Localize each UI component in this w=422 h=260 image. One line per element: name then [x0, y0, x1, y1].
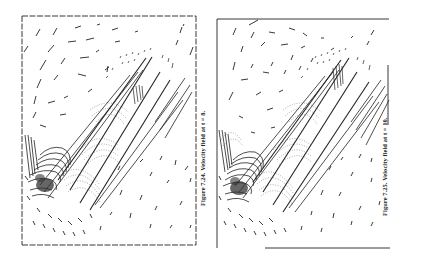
figure-caption-7-25: Figure 7.25. Velocity field at t = 10. — [381, 117, 388, 216]
diagonal-plate — [253, 58, 369, 212]
vector-arrows — [24, 24, 193, 236]
figure-7-25: Figure 7.25. Velocity field at t = 10. — [211, 0, 422, 260]
diagonal-plate — [58, 57, 170, 210]
wake-streaks — [235, 70, 389, 212]
velocity-field-plot-t8 — [0, 0, 211, 260]
velocity-field-plot-t10 — [211, 0, 422, 260]
domain-boundary — [22, 16, 196, 245]
figure-caption-7-24: Figure 7.24. Velocity field at t = 8. — [199, 111, 206, 206]
wake-streaks — [40, 70, 192, 208]
dense-vectors-upper — [301, 48, 370, 90]
vortex-core — [230, 177, 248, 195]
vortex-core — [35, 174, 54, 192]
figure-7-24: Figure 7.24. Velocity field at t = 8. — [0, 0, 211, 260]
dense-vectors-upper — [106, 48, 173, 104]
